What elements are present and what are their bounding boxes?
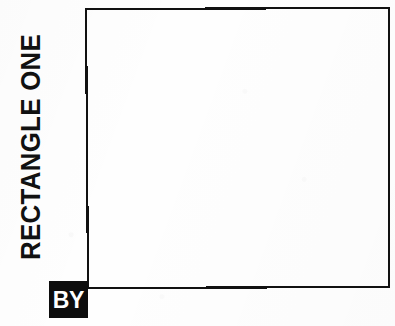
attribution-badge-label: BY (53, 288, 84, 312)
rectangle-shape (0, 0, 395, 326)
rectangle-title-text: RECTANGLE ONE (17, 34, 45, 260)
diagram-canvas: RECTANGLE ONE BY (0, 0, 395, 326)
rectangle-outline (86, 8, 389, 288)
rectangle-title-vertical: RECTANGLE ONE (14, 8, 48, 260)
attribution-badge: BY (49, 281, 88, 318)
